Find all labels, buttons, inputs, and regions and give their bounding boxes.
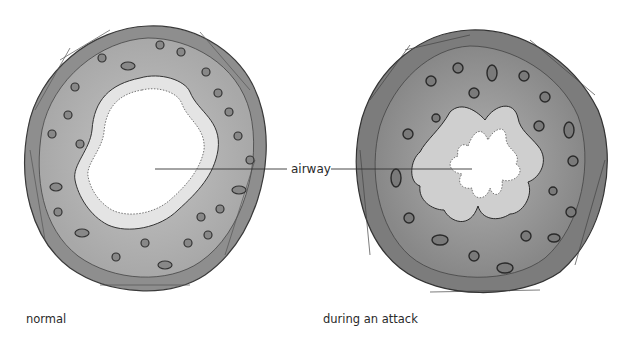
attack-caption: during an attack xyxy=(323,312,418,326)
normal-airway-section xyxy=(25,26,267,291)
attack-airway-section xyxy=(356,30,607,293)
normal-caption: normal xyxy=(26,312,66,326)
airway-label: airway xyxy=(291,162,331,176)
